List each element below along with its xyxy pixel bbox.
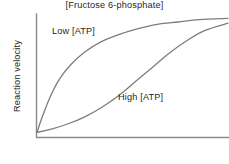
y-axis-label-container: Reaction velocity xyxy=(11,14,25,137)
y-axis-label: Reaction velocity xyxy=(13,40,22,112)
plot-canvas xyxy=(0,0,229,164)
curve-high-atp xyxy=(37,23,228,132)
low-atp-label: Low [ATP] xyxy=(52,27,95,36)
high-atp-label: High [ATP] xyxy=(118,93,163,102)
enzyme-kinetics-figure: Low [ATP] High [ATP] Reaction velocity [… xyxy=(0,0,229,164)
